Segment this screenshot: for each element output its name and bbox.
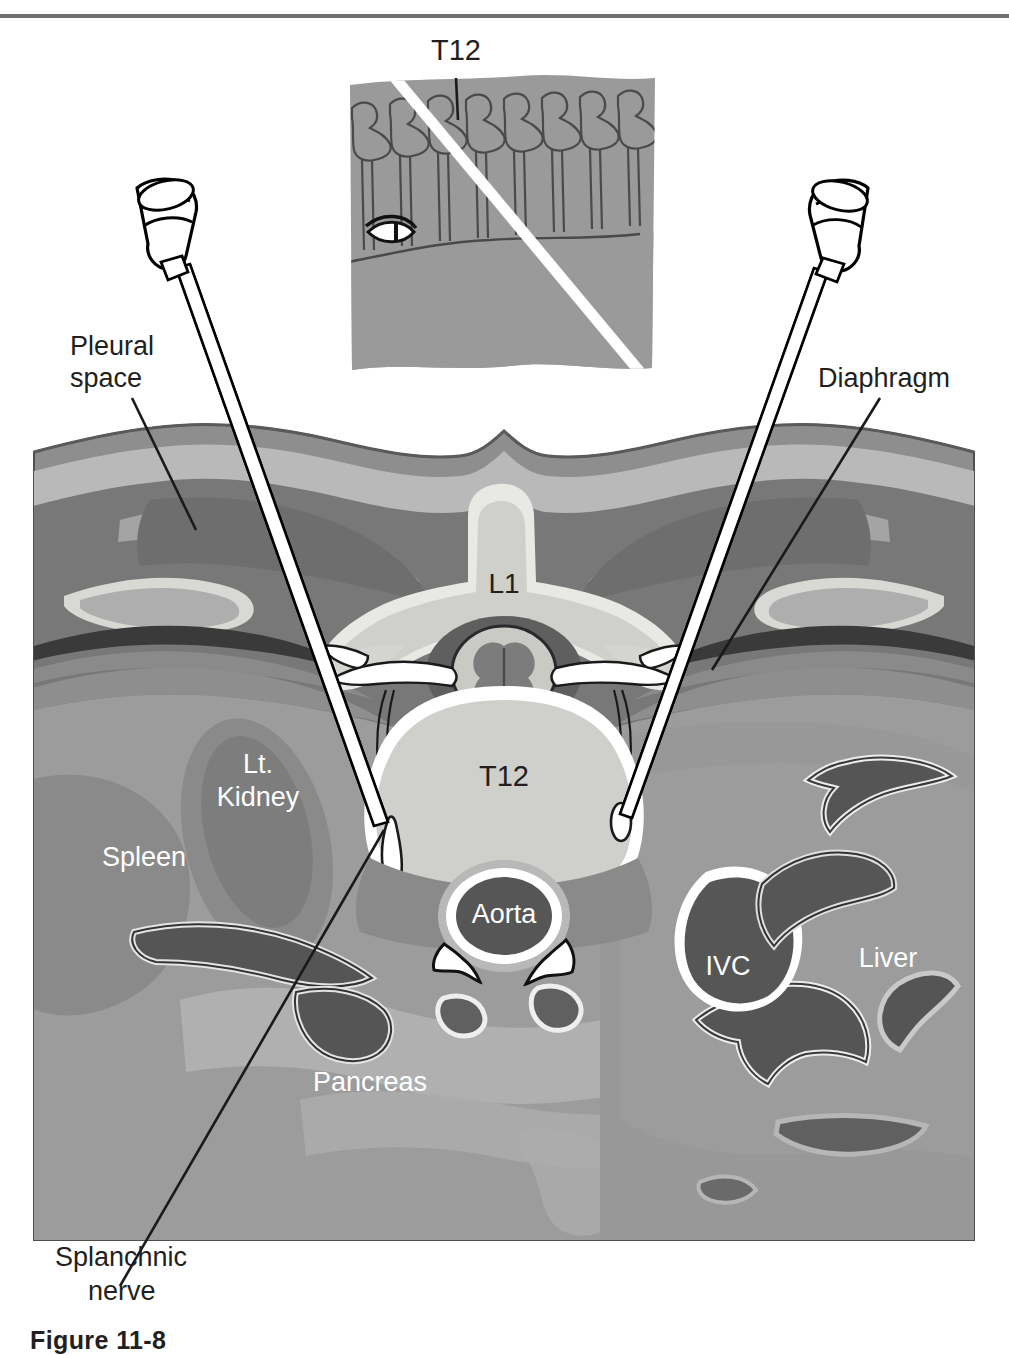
lateral-spine-inset: T12 — [348, 34, 660, 380]
figure-caption: Figure 11-8 — [30, 1326, 166, 1355]
pancreas-label: Pancreas — [313, 1067, 427, 1097]
inset-soft-tissue — [348, 232, 660, 380]
liver-label: Liver — [859, 943, 918, 973]
splanchnic-nerve-label-line2: nerve — [88, 1276, 156, 1306]
splanchnic-nerve-label-line1: Splanchnic — [55, 1242, 187, 1272]
ivc-label: IVC — [705, 951, 750, 981]
l1-label: L1 — [488, 568, 519, 599]
lt-kidney-label-line2: Kidney — [217, 782, 300, 812]
diaphragm-label: Diaphragm — [818, 363, 950, 393]
spleen-label: Spleen — [102, 842, 186, 872]
aorta-label: Aorta — [472, 899, 538, 929]
inset-t12-label: T12 — [431, 34, 481, 66]
axial-cross-section — [20, 424, 988, 1250]
t12-body-label: T12 — [479, 760, 529, 792]
liver-vessel-dot — [698, 1176, 756, 1202]
lt-kidney-label-line1: Lt. — [243, 749, 273, 779]
pleural-space-label-line2: space — [70, 363, 142, 393]
needle-hub — [809, 176, 870, 282]
pleural-space-label-line1: Pleural — [70, 331, 154, 361]
liver-parenchyma — [620, 763, 988, 1160]
small-vessel-left — [438, 996, 485, 1036]
small-vessel-center — [531, 986, 581, 1030]
